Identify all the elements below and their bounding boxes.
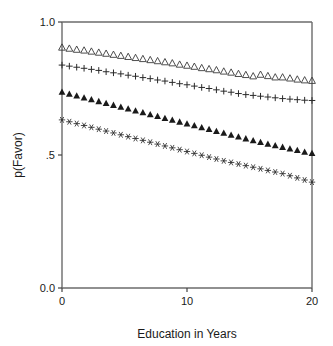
chart-figure: 0.0.51.001020Education in Yearsp(Favor) <box>0 0 333 346</box>
data-point-filled-triangle <box>301 148 308 154</box>
data-point-asterisk <box>125 134 131 140</box>
data-point-asterisk <box>301 177 307 183</box>
data-point-plus <box>279 95 286 102</box>
data-point-asterisk <box>206 154 212 160</box>
y-tick-label: 0.0 <box>40 282 55 294</box>
data-point-filled-triangle <box>81 94 88 100</box>
data-point-open-triangle <box>287 75 294 81</box>
data-point-open-triangle <box>272 74 279 80</box>
data-point-asterisk <box>169 145 175 151</box>
data-point-filled-triangle <box>287 145 294 151</box>
data-point-open-triangle <box>301 77 308 83</box>
data-point-filled-triangle <box>242 135 249 141</box>
data-point-plus <box>272 95 279 102</box>
data-point-filled-triangle <box>110 102 117 108</box>
data-point-open-triangle <box>235 70 242 76</box>
data-point-open-triangle <box>294 76 301 82</box>
data-point-plus <box>140 74 147 81</box>
data-point-asterisk <box>257 166 263 172</box>
data-point-asterisk <box>103 128 109 134</box>
data-point-asterisk <box>213 156 219 162</box>
data-point-asterisk <box>243 163 249 169</box>
data-point-asterisk <box>176 147 182 153</box>
data-point-plus <box>294 96 301 103</box>
data-point-asterisk <box>110 130 116 136</box>
data-point-plus <box>73 64 80 71</box>
data-point-filled-triangle <box>184 120 191 126</box>
data-point-plus <box>132 73 139 80</box>
data-point-filled-triangle <box>95 98 102 104</box>
data-point-open-triangle <box>81 47 88 53</box>
data-point-filled-triangle <box>66 90 73 96</box>
data-point-plus <box>184 81 191 88</box>
data-point-open-triangle <box>169 60 176 66</box>
data-point-plus <box>95 67 102 74</box>
data-point-filled-triangle <box>132 107 139 113</box>
chart-canvas: 0.0.51.001020Education in Yearsp(Favor) <box>0 0 333 346</box>
data-point-filled-triangle <box>235 133 242 139</box>
data-point-filled-triangle <box>88 96 95 102</box>
data-point-filled-triangle <box>264 140 271 146</box>
x-axis-title: Education in Years <box>137 327 236 341</box>
data-point-open-triangle <box>228 69 235 75</box>
data-point-open-triangle <box>279 74 286 80</box>
data-point-filled-triangle <box>147 111 154 117</box>
data-point-open-triangle <box>154 57 161 63</box>
data-point-open-triangle <box>139 55 146 61</box>
data-point-asterisk <box>294 175 300 181</box>
data-point-open-triangle <box>73 46 80 52</box>
data-point-asterisk <box>147 139 153 145</box>
data-point-open-triangle <box>110 51 117 57</box>
data-point-filled-triangle <box>272 142 279 148</box>
y-tick-label: 1.0 <box>40 16 55 28</box>
data-point-plus <box>191 83 198 90</box>
data-point-asterisk <box>287 173 293 179</box>
data-point-plus <box>220 88 227 95</box>
data-point-open-triangle <box>132 54 139 60</box>
data-point-open-triangle <box>103 50 110 56</box>
data-point-plus <box>228 89 235 96</box>
x-tick-label: 0 <box>59 295 65 307</box>
data-point-plus <box>125 72 132 79</box>
data-point-plus <box>243 91 250 98</box>
data-point-plus <box>66 63 73 70</box>
data-point-filled-triangle <box>228 131 235 137</box>
data-point-filled-triangle <box>169 116 176 122</box>
data-point-filled-triangle <box>139 109 146 115</box>
data-point-filled-triangle <box>220 130 227 136</box>
data-point-plus <box>169 79 176 86</box>
data-point-open-triangle <box>125 53 132 59</box>
data-point-filled-triangle <box>117 103 124 109</box>
data-point-asterisk <box>235 161 241 167</box>
data-point-open-triangle <box>257 71 264 77</box>
data-point-filled-triangle <box>198 124 205 130</box>
data-point-plus <box>88 66 95 73</box>
data-point-open-triangle <box>264 72 271 78</box>
data-point-plus <box>59 62 66 69</box>
data-point-filled-triangle <box>250 137 257 143</box>
data-point-open-triangle <box>184 62 191 68</box>
plot-area: 0.0.51.001020Education in Yearsp(Favor) <box>0 0 333 346</box>
data-point-plus <box>198 84 205 91</box>
data-point-filled-triangle <box>279 144 286 150</box>
x-tick-label: 20 <box>306 295 318 307</box>
data-point-asterisk <box>162 143 168 149</box>
data-point-filled-triangle <box>162 115 169 121</box>
data-point-filled-triangle <box>309 150 316 156</box>
data-point-filled-triangle <box>213 128 220 134</box>
data-point-filled-triangle <box>206 126 213 132</box>
data-point-open-triangle <box>206 65 213 71</box>
data-point-filled-triangle <box>154 113 161 119</box>
data-point-filled-triangle <box>103 100 110 106</box>
data-point-asterisk <box>96 126 102 132</box>
data-point-open-triangle <box>213 66 220 72</box>
data-point-plus <box>250 92 257 99</box>
data-point-asterisk <box>132 136 138 142</box>
data-point-filled-triangle <box>59 89 66 95</box>
data-point-asterisk <box>191 151 197 157</box>
data-point-filled-triangle <box>294 147 301 153</box>
data-point-open-triangle <box>95 49 102 55</box>
data-point-asterisk <box>66 119 72 125</box>
data-point-plus <box>265 94 272 101</box>
data-point-plus <box>257 93 264 100</box>
